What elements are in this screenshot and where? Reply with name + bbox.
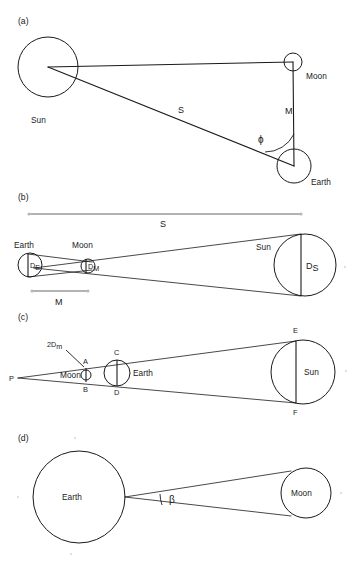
speck-3	[74, 437, 76, 439]
panel-b-m-dimension-end-tick	[86, 289, 89, 292]
panel-c-point-d-label: D	[114, 388, 119, 397]
panel-d-lower-sight-line	[125, 497, 291, 516]
figure-canvas: (a) Sun Moon Earth S M ϕ (b) S	[0, 0, 354, 570]
panel-c-point-a-label: A	[83, 357, 88, 366]
panel-d-beta-label: β	[169, 494, 175, 505]
panel-c-lower-ray	[18, 378, 296, 403]
panel-c-point-b-label: B	[83, 385, 88, 394]
panel-a: (a) Sun Moon Earth S M ϕ	[18, 16, 331, 187]
panel-b-s-dimension-end-tick	[299, 212, 302, 215]
speck-1	[344, 266, 346, 268]
panel-b-m-dimension-start-tick	[30, 289, 33, 292]
panel-c-label: (c)	[18, 312, 28, 322]
speck-6	[340, 492, 342, 494]
panel-c-point-f-label: F	[293, 408, 298, 417]
panel-b: (b) S Sun DS Earth DE Moon DM	[14, 192, 336, 307]
panel-b-earth-label: Earth	[14, 240, 34, 250]
panel-c-point-c-label: C	[114, 348, 120, 357]
panel-c-sun-label: Sun	[304, 367, 319, 377]
panel-c: (c) Sun E F Earth C D Moon A B P 2Dm	[9, 312, 335, 417]
panel-c-two-dm-label: 2Dm	[47, 340, 62, 351]
panel-d-earth-label: Earth	[62, 492, 82, 502]
panel-b-m-label: M	[55, 297, 63, 307]
panel-a-earth-label: Earth	[311, 177, 331, 187]
panel-b-s-dimension: S	[27, 212, 302, 229]
panel-a-sun-label: Sun	[31, 115, 46, 125]
panel-a-sun-earth-line	[48, 67, 294, 166]
panel-a-s-label: S	[178, 105, 184, 115]
panel-c-point-e-label: E	[293, 326, 298, 335]
panel-c-moon-label: Moon	[60, 370, 81, 380]
panel-b-sun-label: Sun	[256, 242, 271, 252]
panel-d-upper-sight-line	[125, 471, 291, 497]
speck-2	[345, 370, 347, 372]
panel-c-earth-label: Earth	[133, 368, 153, 378]
panel-c-two-dm-annotation: 2Dm	[47, 340, 84, 367]
panel-d: (d) Earth Moon β	[18, 433, 331, 543]
panel-d-beta-arc	[160, 494, 162, 505]
panel-b-moon-label: Moon	[72, 240, 93, 250]
panel-b-s-dimension-start-tick	[27, 212, 30, 215]
panel-d-label: (d)	[18, 433, 29, 443]
speck-4	[17, 496, 19, 498]
panel-b-sun-circle	[274, 234, 336, 296]
panel-a-m-label: M	[285, 106, 293, 116]
panel-a-label: (a)	[18, 16, 29, 26]
panel-b-label: (b)	[18, 192, 29, 202]
panel-a-moon-label: Moon	[306, 71, 327, 81]
panel-c-point-p-label: P	[9, 374, 14, 383]
diagram-svg: (a) Sun Moon Earth S M ϕ (b) S	[0, 0, 354, 570]
panel-a-phi-label: ϕ	[258, 134, 264, 145]
panel-c-two-dm-leader	[66, 350, 84, 367]
panel-b-m-dimension: M	[30, 289, 89, 307]
panel-b-s-label: S	[160, 219, 166, 229]
panel-d-moon-label: Moon	[291, 488, 312, 498]
panel-c-sun-circle	[271, 340, 335, 404]
panel-a-sun-moon-line	[48, 62, 293, 67]
speck-5	[70, 553, 72, 555]
